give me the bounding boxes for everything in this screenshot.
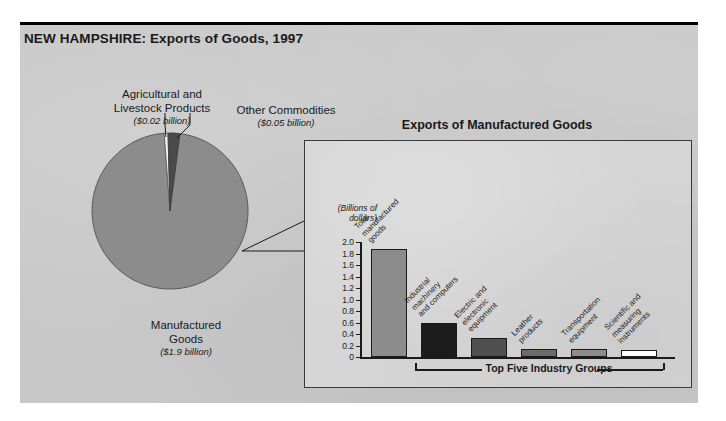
figure-panel: NEW HAMPSHIRE: Exports of Goods, 1997 Ag… xyxy=(20,22,698,403)
bar-5 xyxy=(571,349,607,357)
bar-3 xyxy=(471,338,507,357)
bar-label-1: Totalmanufacturedgoods xyxy=(353,191,408,246)
y-axis-tick-mark xyxy=(356,346,360,347)
bar-2 xyxy=(421,323,457,358)
bar-label-4: Leatherproducts xyxy=(509,310,544,345)
pie-label-other-line1: Other Commodities xyxy=(216,103,356,117)
pie-label-agricultural-line1: Agricultural and xyxy=(82,87,242,101)
bracket-tick-right xyxy=(663,363,665,370)
bar-label-3: Electric andelectronicequipment xyxy=(453,284,503,334)
bar-label-2: Industrialmachineryand computers xyxy=(403,261,461,319)
pie-chart: Agricultural and Livestock Products ($0.… xyxy=(20,25,350,403)
y-axis-tick-mark xyxy=(356,277,360,278)
y-axis-tick-mark xyxy=(356,288,360,289)
y-axis-tick-mark xyxy=(356,300,360,301)
bar-label-5: Transportationequipment xyxy=(559,295,609,345)
bracket-line-left xyxy=(415,369,482,371)
y-axis-tick-mark xyxy=(356,323,360,324)
y-axis-line xyxy=(360,242,362,357)
y-axis-tick-label: 1.6 xyxy=(324,260,354,270)
x-axis-line xyxy=(360,357,675,359)
y-axis-tick-label: 1.2 xyxy=(324,283,354,293)
y-axis-tick-label: 0.4 xyxy=(324,329,354,339)
y-axis-tick-label: 0.6 xyxy=(324,318,354,328)
y-axis-tick-mark xyxy=(356,242,360,243)
bar-label-6: Scientific andmeasuringinstruments xyxy=(603,292,657,346)
y-axis-tick-label: 0.8 xyxy=(324,306,354,316)
top-five-bracket xyxy=(305,141,691,181)
y-axis-tick-label: 1.0 xyxy=(324,295,354,305)
y-axis-tick-mark xyxy=(356,357,360,358)
y-axis-tick-label: 1.8 xyxy=(324,249,354,259)
pie-label-manufactured-line1: Manufactured xyxy=(106,318,266,332)
pie-label-manufactured-line2: Goods xyxy=(106,332,266,346)
pie-label-manufactured: Manufactured Goods ($1.9 billion) xyxy=(106,318,266,358)
y-axis-tick-mark xyxy=(356,311,360,312)
pie-label-manufactured-value: ($1.9 billion) xyxy=(106,346,266,358)
y-axis-tick-label: 1.4 xyxy=(324,272,354,282)
bracket-label: Top Five Industry Groups xyxy=(486,362,613,374)
y-axis-tick-mark xyxy=(356,265,360,266)
bar-6 xyxy=(621,350,657,357)
bar-panel-title: Exports of Manufactured Goods xyxy=(304,118,690,132)
y-axis-tick-mark xyxy=(356,254,360,255)
y-axis-tick-label: 2.0 xyxy=(324,237,354,247)
callout-line-upper xyxy=(242,221,304,251)
bar-4 xyxy=(521,349,557,357)
y-axis-tick-label: 0 xyxy=(324,352,354,362)
bar-1 xyxy=(371,249,407,357)
bar-chart-panel: (Billions of dollars) Top Five Industry … xyxy=(304,140,692,388)
y-axis-tick-label: 0.2 xyxy=(324,341,354,351)
y-axis-tick-mark xyxy=(356,334,360,335)
